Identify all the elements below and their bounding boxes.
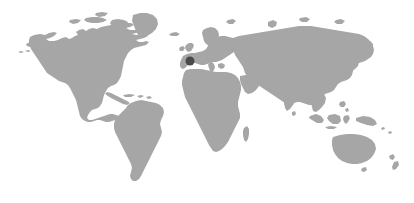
world-map-svg xyxy=(0,0,414,203)
world-map-figure: World map with highlighted location xyxy=(0,0,414,203)
highlight-marker-spain[interactable] xyxy=(186,57,195,66)
